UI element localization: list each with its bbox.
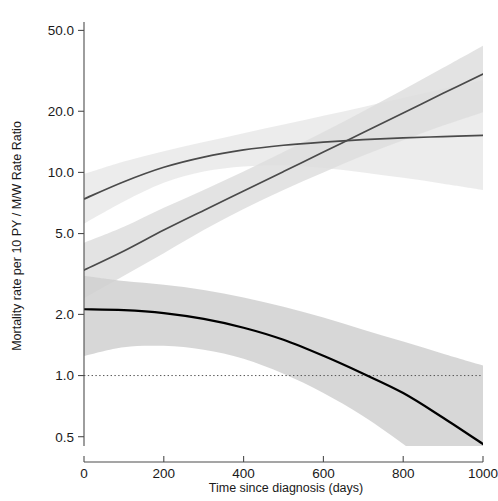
x-tick-label: 400 <box>232 466 255 481</box>
y-tick-label: 5.0 <box>55 226 74 241</box>
x-axis-title: Time since diagnosis (days) <box>209 481 363 495</box>
y-tick-label: 50.0 <box>48 23 74 38</box>
chart-figure: 0.51.02.05.010.020.050.00200400600800100… <box>0 0 498 501</box>
x-tick-label: 800 <box>392 466 415 481</box>
x-tick-label: 600 <box>312 466 335 481</box>
y-tick-label: 2.0 <box>55 307 74 322</box>
x-tick-label: 200 <box>153 466 176 481</box>
x-tick-label: 1000 <box>468 466 498 481</box>
y-tick-label: 20.0 <box>48 104 74 119</box>
y-tick-label: 10.0 <box>48 165 74 180</box>
y-tick-label: 0.5 <box>55 430 74 445</box>
y-axis-title: Mortality rate per 10 PY / M/W Rate Rati… <box>10 121 24 351</box>
y-tick-label: 1.0 <box>55 368 74 383</box>
x-tick-label: 0 <box>80 466 88 481</box>
chart-canvas: 0.51.02.05.010.020.050.00200400600800100… <box>0 0 498 501</box>
